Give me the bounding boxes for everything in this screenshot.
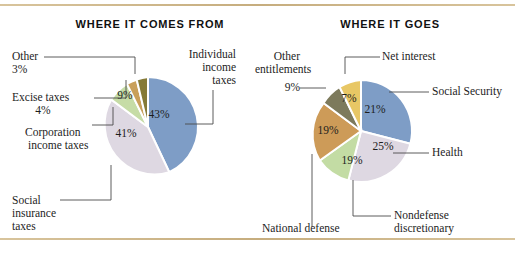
- label-other-entitlements-line1: Other: [255, 50, 300, 64]
- label-nondefense-discretionary-line2: discretionary: [394, 222, 454, 236]
- label-net-interest: Net interest: [382, 50, 435, 64]
- label-other-entitlements-line2: entitlements: [255, 63, 300, 77]
- leader-nondefense-discretionary: [353, 180, 391, 216]
- leader-net-interest: [345, 57, 380, 74]
- label-social-security: Social Security: [432, 85, 502, 99]
- label-nondefense-discretionary-line1: Nondefense: [394, 209, 449, 223]
- label-national-defense: National defense: [262, 222, 340, 236]
- label-health: Health: [432, 146, 463, 160]
- label-other-entitlements-percent: 9%: [255, 81, 300, 95]
